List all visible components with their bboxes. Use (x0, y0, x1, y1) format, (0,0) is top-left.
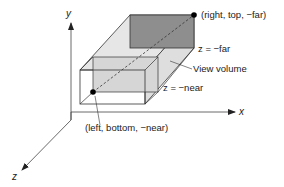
far-face (130, 15, 194, 48)
near-corner-leader (95, 96, 100, 125)
far-corner-point (191, 12, 197, 18)
near-plane-label: z = −near (163, 82, 203, 93)
view-volume-label: View volume (193, 63, 247, 74)
y-axis-label: y (65, 8, 72, 19)
z-axis-label: z (11, 171, 17, 182)
inner-face (93, 57, 158, 92)
near-corner-point (90, 89, 96, 95)
x-axis-label: x (238, 106, 245, 117)
z-axis (22, 120, 71, 170)
near-corner-label: (left, bottom, −near) (85, 122, 168, 133)
view-volume-diagram: y x z (right, top, −far) z = −far View v… (0, 0, 284, 187)
far-corner-label: (right, top, −far) (201, 9, 266, 20)
far-plane-label: z = −far (198, 43, 230, 54)
